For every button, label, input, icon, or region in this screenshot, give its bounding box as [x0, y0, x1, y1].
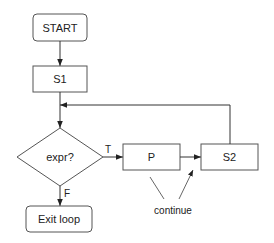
start-node: START — [33, 14, 87, 41]
condition-node: expr? — [17, 128, 103, 186]
continue-label: continue — [154, 205, 192, 216]
s2-node: S2 — [201, 144, 258, 170]
flowchart-diagram: START S1 expr? T P S2 F Exit loop contin… — [0, 0, 274, 243]
exit-label: Exit loop — [38, 213, 80, 225]
p-label: P — [148, 151, 155, 163]
edge-false-label: F — [64, 188, 70, 199]
exit-node: Exit loop — [26, 206, 92, 232]
edge-true-label: T — [105, 144, 111, 155]
s2-label: S2 — [223, 151, 236, 163]
continue-pointer-arrow — [179, 170, 193, 199]
edge-loop-back — [60, 105, 230, 144]
s1-label: S1 — [53, 73, 66, 85]
p-node: P — [123, 144, 180, 170]
condition-label: expr? — [46, 151, 74, 163]
continue-pointer-line — [150, 177, 164, 199]
start-label: START — [42, 22, 77, 34]
s1-node: S1 — [33, 66, 87, 92]
